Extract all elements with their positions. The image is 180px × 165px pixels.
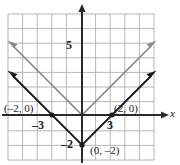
x-axis-label: x [170,108,175,119]
coordinate-plane-svg [0,0,180,165]
point-neg2-0 [50,113,55,118]
annotation-point-0-neg2: (0, –2) [90,145,119,156]
graph-figure: 5 –3 3 –2 (–2, 0) (2, 0) (0, –2) x [0,0,180,165]
point-0-neg2 [79,142,84,147]
y-tick-label-5: 5 [66,39,72,51]
x-tick-label-neg3: –3 [32,119,44,131]
annotation-point-neg2-0: (–2, 0) [4,103,33,114]
y-tick-label-neg2: –2 [61,138,73,150]
annotation-point-2-0: (2, 0) [114,103,138,114]
x-tick-label-3: 3 [107,119,113,131]
